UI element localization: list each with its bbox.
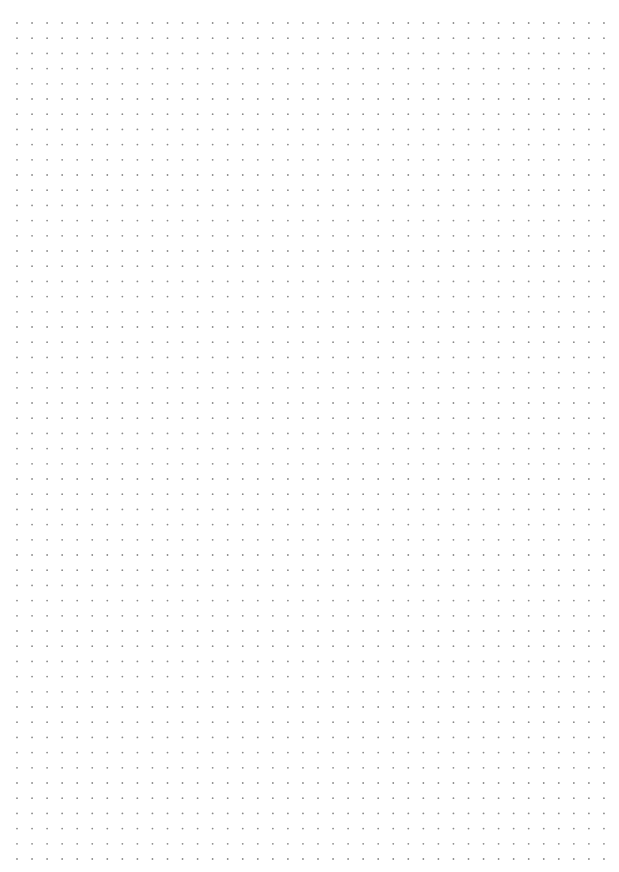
grid-dot [317, 630, 319, 632]
grid-dot [272, 737, 274, 739]
grid-dot [483, 828, 485, 830]
grid-dot [573, 37, 575, 39]
grid-dot [558, 797, 560, 799]
grid-dot [588, 387, 590, 389]
grid-dot [91, 448, 93, 450]
grid-dot [573, 281, 575, 283]
grid-dot [242, 235, 244, 237]
grid-dot [483, 250, 485, 252]
grid-dot [498, 600, 500, 602]
grid-dot [76, 205, 78, 207]
grid-dot [137, 311, 139, 313]
grid-dot [528, 600, 530, 602]
grid-dot [377, 144, 379, 146]
grid-dot [392, 448, 394, 450]
grid-dot [317, 402, 319, 404]
grid-dot [377, 433, 379, 435]
grid-dot [422, 676, 424, 678]
grid-dot [76, 159, 78, 161]
grid-dot [407, 585, 409, 587]
grid-dot [167, 113, 169, 115]
grid-dot [558, 691, 560, 693]
grid-dot [377, 98, 379, 100]
grid-dot [422, 752, 424, 754]
grid-dot [257, 37, 259, 39]
grid-dot [16, 37, 18, 39]
grid-dot [227, 159, 229, 161]
grid-dot [61, 721, 63, 723]
grid-dot [528, 235, 530, 237]
grid-dot [121, 615, 123, 617]
grid-dot [453, 509, 455, 511]
grid-dot [197, 661, 199, 663]
grid-dot [513, 721, 515, 723]
grid-dot [573, 235, 575, 237]
grid-dot [242, 281, 244, 283]
grid-dot [61, 357, 63, 359]
grid-dot [287, 174, 289, 176]
grid-dot [407, 797, 409, 799]
grid-dot [392, 478, 394, 480]
grid-dot [558, 174, 560, 176]
grid-dot [121, 645, 123, 647]
grid-dot [392, 493, 394, 495]
grid-dot [543, 782, 545, 784]
grid-dot [573, 585, 575, 587]
grid-dot [392, 463, 394, 465]
grid-dot [16, 265, 18, 267]
grid-dot [468, 569, 470, 571]
grid-dot [106, 630, 108, 632]
grid-dot [227, 357, 229, 359]
grid-dot [317, 645, 319, 647]
grid-dot [392, 630, 394, 632]
grid-dot [317, 417, 319, 419]
grid-dot [528, 144, 530, 146]
grid-dot [121, 83, 123, 85]
grid-dot [558, 402, 560, 404]
grid-dot [272, 189, 274, 191]
grid-dot [377, 782, 379, 784]
grid-dot [182, 569, 184, 571]
grid-dot [362, 53, 364, 55]
grid-dot [287, 189, 289, 191]
grid-dot [558, 144, 560, 146]
grid-dot [347, 174, 349, 176]
grid-dot [558, 813, 560, 815]
grid-dot [272, 524, 274, 526]
grid-dot [377, 174, 379, 176]
grid-dot [483, 493, 485, 495]
grid-dot [76, 296, 78, 298]
grid-dot [438, 144, 440, 146]
grid-dot [91, 615, 93, 617]
grid-dot [407, 493, 409, 495]
grid-dot [272, 281, 274, 283]
grid-dot [16, 235, 18, 237]
grid-dot [31, 813, 33, 815]
grid-dot [31, 782, 33, 784]
grid-dot [317, 448, 319, 450]
grid-dot [513, 250, 515, 252]
grid-dot [167, 676, 169, 678]
grid-dot [332, 524, 334, 526]
grid-dot [152, 706, 154, 708]
grid-dot [91, 265, 93, 267]
grid-dot [483, 159, 485, 161]
grid-dot [91, 797, 93, 799]
grid-dot [603, 417, 605, 419]
grid-dot [212, 129, 214, 131]
grid-dot [588, 828, 590, 830]
grid-dot [152, 22, 154, 24]
grid-dot [91, 341, 93, 343]
grid-dot [543, 129, 545, 131]
grid-dot [167, 524, 169, 526]
grid-dot [182, 691, 184, 693]
grid-dot [603, 706, 605, 708]
grid-dot [513, 129, 515, 131]
grid-dot [31, 189, 33, 191]
grid-dot [212, 296, 214, 298]
grid-dot [302, 220, 304, 222]
grid-dot [16, 706, 18, 708]
grid-dot [543, 53, 545, 55]
grid-dot [302, 569, 304, 571]
grid-dot [422, 797, 424, 799]
